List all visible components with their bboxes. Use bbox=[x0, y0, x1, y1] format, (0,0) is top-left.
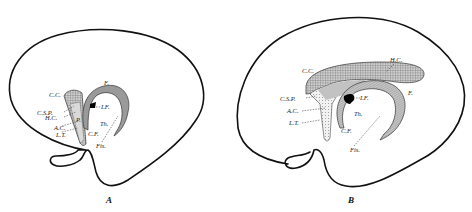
label-a-fis: Fis. bbox=[95, 142, 106, 149]
label-a-cc: C.C. bbox=[49, 91, 61, 98]
label-b-lt: L.T. bbox=[288, 119, 299, 126]
label-b-cf: C.F. bbox=[341, 127, 352, 134]
label-a-p: P. bbox=[75, 116, 81, 123]
label-b-ac: A.C. bbox=[286, 107, 299, 114]
fornix-a bbox=[83, 85, 129, 136]
panel-a: C.C. C.S.P. H.C. A.C. L.T. P. F. I.F. Th… bbox=[10, 30, 204, 205]
label-a-cf: C.F. bbox=[88, 130, 99, 137]
caption-b: B bbox=[347, 195, 354, 205]
label-b-csp: C.S.P. bbox=[280, 95, 296, 102]
label-a-th: Th. bbox=[100, 120, 109, 127]
label-a-ac: A.C. bbox=[53, 124, 66, 131]
label-b-cc: C.C. bbox=[302, 67, 314, 74]
label-b-hc: H.C. bbox=[389, 56, 403, 63]
label-b-if: I.F. bbox=[359, 94, 369, 101]
label-b-th: Th. bbox=[354, 110, 363, 117]
label-b-fis: Fis. bbox=[349, 146, 360, 153]
label-a-lt: L.T. bbox=[55, 131, 66, 138]
label-a-hc: H.C. bbox=[44, 114, 58, 121]
panel-b: C.C. H.C. C.S.P. I.F. F. A.C. Th. L.T. C… bbox=[237, 18, 464, 205]
brain-diagram-figure: C.C. C.S.P. H.C. A.C. L.T. P. F. I.F. Th… bbox=[0, 0, 472, 212]
caption-a: A bbox=[105, 195, 112, 205]
label-a-f: F. bbox=[103, 79, 109, 86]
label-b-f: F. bbox=[407, 89, 413, 96]
label-a-if: I.F. bbox=[100, 103, 110, 110]
